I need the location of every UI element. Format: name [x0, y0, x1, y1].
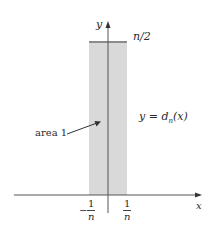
left-tick-numerator: 1 [87, 199, 95, 211]
y-axis-arrow-icon [106, 21, 111, 28]
height-label: n/2 [133, 31, 151, 42]
right-tick-numerator: 1 [123, 199, 131, 211]
x-axis-label: x [196, 201, 202, 211]
function-label-prefix: y = [139, 110, 161, 123]
function-label-arg: (x) [173, 110, 188, 123]
left-tick-fraction: 1 n [87, 199, 95, 222]
right-tick-denominator: n [124, 211, 130, 222]
area-label: area 1 [35, 128, 67, 138]
x-axis-arrow-icon [195, 193, 202, 198]
delta-sequence-diagram: y n/2 y = dn(x) area 1 x − 1 n 1 n [0, 0, 214, 230]
right-tick-fraction: 1 n [123, 199, 131, 222]
y-axis-label: y [96, 19, 102, 30]
function-label: y = dn(x) [139, 111, 188, 125]
left-tick-denominator: n [88, 211, 94, 222]
